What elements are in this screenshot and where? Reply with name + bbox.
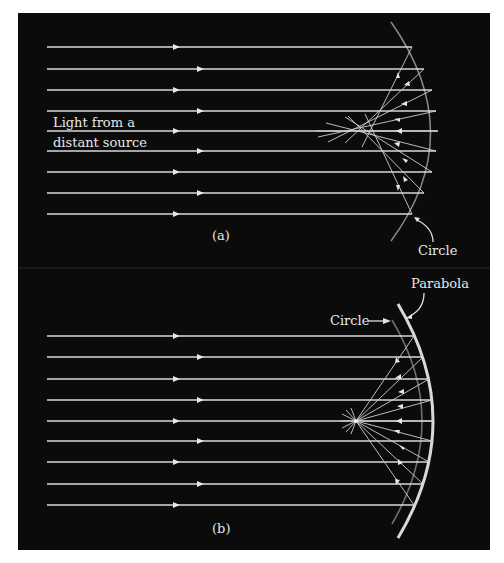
- circle-label-a: Circle: [418, 243, 458, 258]
- circle-label-b: Circle: [330, 313, 370, 328]
- parabola-label: Parabola: [411, 276, 469, 291]
- source-label-line1: Light from a: [53, 115, 135, 130]
- mirror-focus-diagram: Light from a distant source (a) Circle: [0, 0, 504, 563]
- panel-a-caption: (a): [212, 228, 230, 243]
- source-label-line2: distant source: [53, 135, 147, 150]
- panel-b-caption: (b): [212, 521, 230, 536]
